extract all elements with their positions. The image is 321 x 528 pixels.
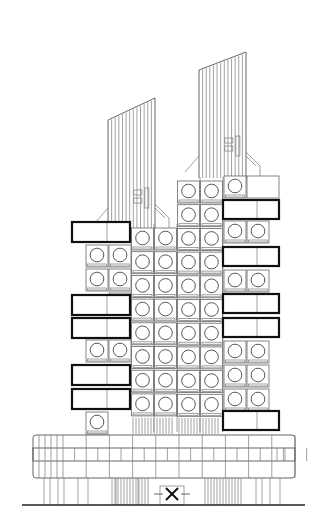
right-mast (185, 52, 260, 178)
entrance-marker (154, 488, 190, 500)
elevation-drawing: Capsule tower front elevation (0, 0, 321, 528)
outer-left-capsules (72, 222, 131, 434)
elevation-canvas (0, 0, 321, 528)
podium-base (33, 435, 307, 478)
outer-right-capsules (223, 176, 279, 430)
left-core (132, 224, 178, 434)
left-mast (94, 98, 169, 230)
right-core (178, 177, 224, 434)
ground-columns (44, 478, 280, 505)
